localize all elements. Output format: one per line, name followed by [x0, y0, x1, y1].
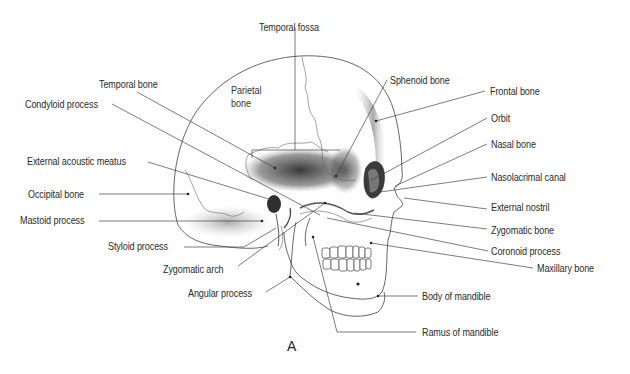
- label-temporal-bone: Temporal bone: [99, 78, 158, 90]
- label-coronoid-process: Coronoid process: [491, 245, 560, 257]
- label-nasolacrimal-canal: Nasolacrimal canal: [491, 171, 566, 183]
- parietal-bone-label: Parietal bone: [231, 84, 262, 110]
- skull-diagram: Parietal bone Temporal fossa Temporal bo…: [0, 0, 630, 374]
- label-zygomatic-bone: Zygomatic bone: [491, 224, 554, 236]
- parietal-line-1: Parietal: [231, 84, 262, 97]
- label-occipital-bone: Occipital bone: [28, 188, 84, 200]
- figure-caption: A: [287, 338, 296, 354]
- parietal-line-2: bone: [231, 97, 262, 110]
- label-nasal-bone: Nasal bone: [491, 138, 536, 150]
- label-temporal-fossa: Temporal fossa: [259, 21, 319, 33]
- label-maxillary-bone: Maxillary bone: [537, 262, 594, 274]
- label-external-acoustic-meatus: External acoustic meatus: [27, 155, 126, 167]
- label-external-nostril: External nostril: [491, 201, 549, 213]
- label-sphenoid-bone: Sphenoid bone: [390, 74, 450, 86]
- label-ramus-of-mandible: Ramus of mandible: [422, 326, 498, 338]
- skull-illustration: [0, 0, 630, 374]
- label-condyloid-process: Condyloid process: [25, 98, 98, 110]
- label-orbit: Orbit: [491, 112, 510, 124]
- ear-canal-shape: [267, 195, 281, 213]
- label-body-of-mandible: Body of mandible: [422, 290, 490, 302]
- label-frontal-bone: Frontal bone: [490, 85, 540, 97]
- label-mastoid-process: Mastoid process: [20, 214, 84, 226]
- label-angular-process: Angular process: [188, 287, 252, 299]
- label-styloid-process: Styloid process: [108, 240, 168, 252]
- label-zygomatic-arch: Zygomatic arch: [163, 263, 224, 275]
